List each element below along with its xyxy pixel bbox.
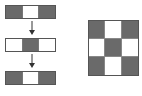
grid-cell [89,57,105,75]
grid-cell [89,21,105,39]
strip-cell [6,39,23,51]
grid-cell [122,39,138,57]
strip-1 [5,5,56,19]
strip-cell [23,6,40,18]
strip-cell [23,72,40,84]
strip-cell [23,39,40,51]
strip-cell [39,39,55,51]
strip-cell [39,72,55,84]
down-arrow-icon [29,20,35,36]
strip-cell [6,6,23,18]
grid-cell [89,39,105,57]
grid-cell [122,21,138,39]
checkerboard-grid [88,20,139,76]
grid-cell [105,39,121,57]
strip-cell [6,72,23,84]
grid-cell [105,21,121,39]
strip-cell [39,6,55,18]
strip-2 [5,38,56,52]
grid-cell [122,57,138,75]
grid-cell [105,57,121,75]
down-arrow-icon [29,53,35,69]
strip-3 [5,71,56,85]
